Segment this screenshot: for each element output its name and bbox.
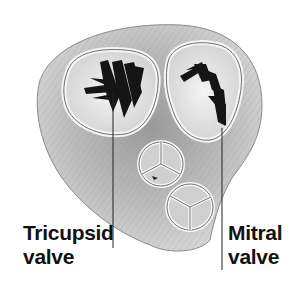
mitral-valve-label: Mitral valve	[228, 221, 282, 269]
pulmonary-valve	[139, 142, 183, 186]
tricuspid-label-line2: valve	[23, 245, 114, 269]
mitral-valve	[166, 43, 241, 140]
aortic-valve	[167, 184, 213, 230]
mitral-label-line2: valve	[228, 245, 282, 269]
tricuspid-valve-label: Tricupsid valve	[23, 221, 114, 269]
tricuspid-valve	[64, 50, 158, 135]
heart-valve-diagram: Tricupsid valve Mitral valve	[0, 0, 299, 298]
tricuspid-label-line1: Tricupsid	[23, 221, 114, 245]
mitral-label-line1: Mitral	[228, 221, 282, 245]
